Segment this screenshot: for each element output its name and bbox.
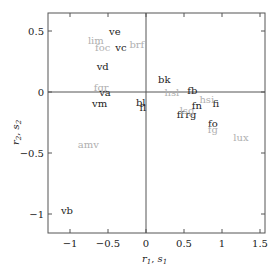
x-axis-ticks: −1−0.500.511.5 — [63, 13, 268, 249]
point-label-hsl: hsl — [164, 87, 179, 98]
y-axis-label: r2, s2 — [10, 119, 23, 145]
x-tick-label: −1 — [63, 238, 78, 249]
point-label-brf: brf — [129, 39, 145, 50]
point-labels: vevcvdvavmblflbkfbfifnffrgfovblimfocbrff… — [60, 26, 249, 216]
point-label-fl: fl — [140, 102, 147, 113]
point-label-vm: vm — [91, 98, 108, 109]
x-tick-label: 0.5 — [176, 238, 192, 249]
plot-frame — [48, 13, 265, 233]
point-label-bk: bk — [158, 74, 171, 85]
x-tick-label: −0.5 — [96, 238, 120, 249]
point-label-fg: fg — [208, 124, 219, 135]
y-axis-ticks: −1−0.500.5 — [20, 26, 265, 220]
point-label-vd: vd — [96, 61, 110, 72]
point-label-lsg: lsg — [180, 105, 195, 116]
point-label-ve: ve — [108, 26, 121, 37]
y-tick-label: −1 — [29, 209, 44, 220]
point-label-hsi: hsi — [199, 94, 214, 105]
y-tick-label: −0.5 — [20, 148, 44, 159]
point-label-vb: vb — [60, 205, 73, 216]
x-tick-label: 1 — [219, 238, 225, 249]
x-axis-label: r1, s1 — [142, 253, 167, 266]
point-label-fb: fb — [187, 85, 197, 96]
point-label-foc: foc — [95, 42, 111, 53]
x-tick-label: 0 — [143, 238, 149, 249]
plot-border — [48, 13, 265, 233]
point-label-amv: amv — [78, 139, 99, 150]
point-label-fgr: fgr — [94, 82, 109, 93]
y-tick-label: 0 — [38, 87, 44, 98]
point-label-lux: lux — [233, 132, 249, 143]
point-label-vc: vc — [114, 42, 127, 53]
x-tick-label: 1.5 — [252, 238, 268, 249]
y-tick-label: 0.5 — [28, 26, 44, 37]
scatter-chart: −1−0.500.511.5 −1−0.500.5 vevcvdvavmblfl… — [0, 0, 276, 273]
